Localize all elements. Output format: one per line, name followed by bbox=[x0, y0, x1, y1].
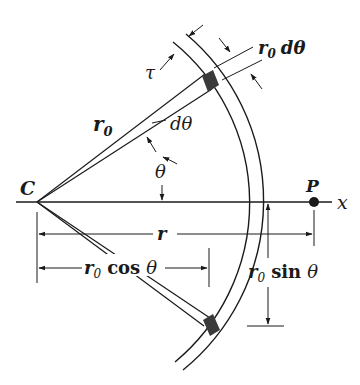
label-x-axis: x bbox=[337, 191, 348, 213]
diagram-svg: C P x τ r0dθ r0 dθ θ r r0cosθ r0sinθ bbox=[0, 0, 360, 385]
label-r0-cos-theta: r0cosθ bbox=[84, 257, 157, 281]
point-p-dot bbox=[309, 197, 319, 207]
upper-strip-edge-2 bbox=[37, 89, 212, 202]
label-r0: r0 bbox=[93, 112, 113, 139]
label-r0-sin-theta: r0sinθ bbox=[248, 261, 318, 285]
label-dtheta: dθ bbox=[170, 113, 193, 134]
arc-width-arrow-2 bbox=[251, 74, 262, 89]
label-arc-width-r: r0dθ bbox=[258, 37, 305, 61]
label-tau: τ bbox=[145, 62, 156, 83]
label-r: r bbox=[157, 223, 168, 244]
tau-arrow-left bbox=[160, 54, 174, 70]
tau-arrow-right bbox=[189, 25, 203, 36]
label-c: C bbox=[20, 177, 35, 199]
arc-width-ext-2 bbox=[222, 60, 262, 80]
upper-strip-edge-1 bbox=[37, 74, 205, 202]
lower-ring-element bbox=[203, 314, 220, 336]
ring-field-diagram: C P x τ r0dθ r0 dθ θ r r0cosθ r0sinθ bbox=[0, 0, 360, 385]
theta-arrow-upper bbox=[147, 137, 156, 152]
label-theta: θ bbox=[155, 161, 166, 182]
arc-width-arrow-1 bbox=[219, 38, 230, 52]
arc-width-ext-1 bbox=[214, 47, 253, 68]
label-p: P bbox=[305, 176, 320, 196]
